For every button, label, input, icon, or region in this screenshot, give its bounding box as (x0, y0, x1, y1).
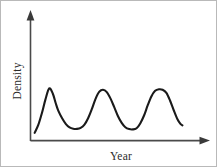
x-axis-arrowhead (200, 137, 211, 145)
chart-canvas: Density Year (1, 1, 217, 167)
x-axis-label: Year (110, 150, 132, 162)
y-axis-arrowhead (27, 10, 35, 21)
density-curve-path (35, 88, 183, 133)
density-curve-group (35, 88, 183, 133)
density-cycle-figure: Density Year (0, 0, 217, 167)
y-axis-label: Density (11, 62, 24, 99)
